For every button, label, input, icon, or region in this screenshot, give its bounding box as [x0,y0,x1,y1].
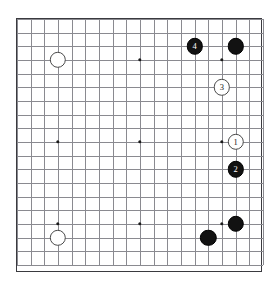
grid-line-horizontal [17,210,263,211]
star-point [138,140,141,143]
stone-white-move-3[interactable]: 3 [214,79,230,95]
stone-black-bottom[interactable] [200,229,216,245]
stone-white-upper-left[interactable] [50,52,66,68]
grid-line-horizontal [17,197,263,198]
grid-line-vertical [263,19,264,265]
star-point [138,58,141,61]
star-point [220,140,223,143]
stone-black-move-4[interactable]: 4 [186,38,202,54]
grid-line-vertical [154,19,155,265]
star-point [138,222,141,225]
grid-line-horizontal [17,169,263,170]
star-point [56,222,59,225]
star-point [220,222,223,225]
grid-line-vertical [208,19,209,265]
grid-line-vertical [249,19,250,265]
go-board[interactable]: 4312 [16,18,262,272]
stone-black-right-low[interactable] [227,216,243,232]
stone-black-move-2[interactable]: 2 [227,161,243,177]
grid-line-horizontal [17,183,263,184]
grid-line-horizontal [17,251,263,252]
stone-white-lower-left[interactable] [50,229,66,245]
grid-line-vertical [181,19,182,265]
star-point [56,140,59,143]
grid-line-horizontal [17,265,263,266]
grid-line-vertical [195,19,196,265]
grid-line-horizontal [17,156,263,157]
stone-white-move-1[interactable]: 1 [227,134,243,150]
stone-black-corner-top[interactable] [227,38,243,54]
go-diagram-canvas: 4312 [0,0,280,292]
star-point [220,58,223,61]
grid-line-vertical [167,19,168,265]
